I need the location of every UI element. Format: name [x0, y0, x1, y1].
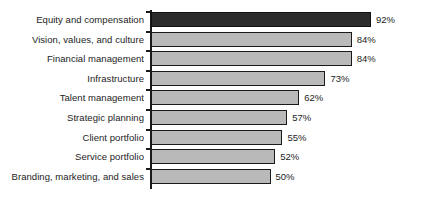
bar-row: Service portfolio52%: [0, 147, 422, 166]
category-label: Strategic planning: [0, 108, 144, 127]
bar: [151, 110, 287, 125]
bar-row: Branding, marketing, and sales50%: [0, 167, 422, 186]
category-label: Financial management: [0, 49, 144, 68]
category-label: Infrastructure: [0, 69, 144, 88]
bar-row: Financial management84%: [0, 49, 422, 68]
horizontal-bar-chart: Equity and compensation92%Vision, values…: [0, 0, 422, 201]
category-label: Vision, values, and culture: [0, 30, 144, 49]
value-label: 57%: [292, 109, 311, 126]
bar: [151, 90, 299, 105]
value-label: 55%: [287, 129, 306, 146]
bar-row: Vision, values, and culture84%: [0, 30, 422, 49]
value-label: 84%: [357, 50, 376, 67]
category-label: Service portfolio: [0, 147, 144, 166]
bar: [151, 130, 282, 145]
value-label: 50%: [276, 168, 295, 185]
bar-row: Strategic planning57%: [0, 108, 422, 127]
bar: [151, 12, 371, 27]
category-label: Equity and compensation: [0, 10, 144, 29]
value-label: 92%: [376, 11, 395, 28]
bar-row: Equity and compensation92%: [0, 10, 422, 29]
category-label: Client portfolio: [0, 128, 144, 147]
value-label: 52%: [280, 148, 299, 165]
bar-row: Infrastructure73%: [0, 69, 422, 88]
bar: [151, 51, 352, 66]
bar: [151, 169, 271, 184]
bar: [151, 71, 325, 86]
bar-row: Talent management62%: [0, 88, 422, 107]
value-label: 84%: [357, 31, 376, 48]
bar-row: Client portfolio55%: [0, 128, 422, 147]
value-label: 62%: [304, 89, 323, 106]
value-label: 73%: [330, 70, 349, 87]
bar: [151, 32, 352, 47]
plot-area: Equity and compensation92%Vision, values…: [0, 0, 422, 201]
category-label: Talent management: [0, 88, 144, 107]
bar: [151, 149, 275, 164]
category-label: Branding, marketing, and sales: [0, 167, 144, 186]
